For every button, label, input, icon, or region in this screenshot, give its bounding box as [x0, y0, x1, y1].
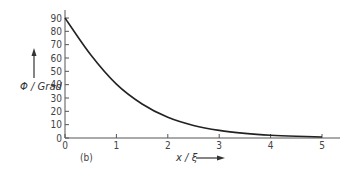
y-tick-label: 20 — [51, 106, 63, 117]
y-tick-label: 90 — [51, 13, 63, 24]
y-axis-arrow-icon — [32, 48, 37, 78]
x-axis-arrow-icon — [196, 156, 225, 161]
x-tick-label: 3 — [216, 140, 222, 151]
x-tick-label: 0 — [62, 140, 68, 151]
chart: 0102030405060708090012345 Φ / Grad x / ξ… — [0, 0, 354, 174]
y-axis-label: Φ / Grad — [20, 81, 63, 92]
y-tick-label: 50 — [51, 66, 63, 77]
x-tick-label: 4 — [268, 140, 274, 151]
x-tick-label: 2 — [165, 140, 171, 151]
axes: 0102030405060708090012345 — [51, 10, 340, 151]
x-axis-label: x / ξ — [175, 152, 198, 163]
y-tick-label: 10 — [51, 119, 63, 130]
y-tick-label: 30 — [51, 93, 63, 104]
data-curve — [65, 18, 322, 137]
panel-label: (b) — [80, 152, 93, 163]
y-tick-label: 80 — [51, 26, 63, 37]
x-tick-label: 1 — [114, 140, 120, 151]
x-tick-label: 5 — [319, 140, 325, 151]
y-tick-label: 70 — [51, 39, 63, 50]
y-tick-label: 60 — [51, 53, 63, 64]
